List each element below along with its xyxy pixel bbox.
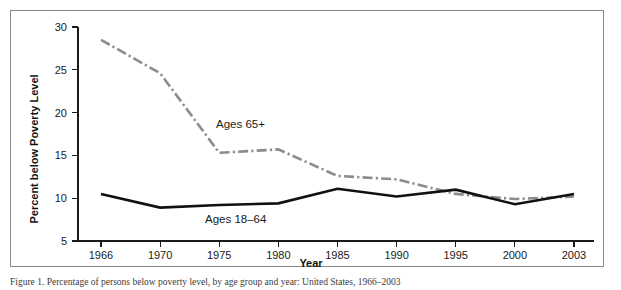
y-tick-label-30: 30 (55, 21, 67, 33)
x-tick-label-2003: 2003 (562, 249, 586, 261)
series-annotation-ages-18-64: Ages 18–64 (205, 213, 267, 225)
series-group (101, 40, 574, 208)
y-tick-labels: 30 25 20 15 10 5 (55, 21, 67, 247)
figure-frame: Percent below Poverty Level 30 25 20 15 … (10, 10, 604, 267)
y-tick-label-5: 5 (61, 235, 67, 247)
y-tick-label-15: 15 (55, 149, 67, 161)
x-tick-label-1980: 1980 (266, 249, 290, 261)
y-tick-label-10: 10 (55, 192, 67, 204)
x-tick-label-2000: 2000 (503, 249, 527, 261)
x-tick-label-1985: 1985 (325, 249, 349, 261)
x-tick-group (101, 241, 574, 247)
y-tick-group (72, 27, 78, 241)
poverty-line-chart: Percent below Poverty Level 30 25 20 15 … (11, 11, 605, 268)
x-tick-label-1990: 1990 (384, 249, 408, 261)
x-axis-title: Year (299, 257, 323, 268)
x-tick-label-1966: 1966 (89, 249, 113, 261)
x-tick-label-1995: 1995 (444, 249, 468, 261)
x-tick-label-1975: 1975 (207, 249, 231, 261)
y-tick-label-20: 20 (55, 107, 67, 119)
y-axis-title: Percent below Poverty Level (28, 74, 40, 223)
series-annotation-ages-65-plus: Ages 65+ (216, 118, 265, 130)
figure-caption: Figure 1. Percentage of persons below po… (10, 276, 604, 290)
series-line-ages-18-64 (101, 189, 574, 208)
series-annotations: Ages 65+Ages 18–64 (205, 118, 267, 225)
series-line-ages-65-plus (101, 40, 574, 199)
caption-line: Figure 1. Percentage of persons below po… (10, 276, 604, 288)
y-tick-label-25: 25 (55, 64, 67, 76)
x-tick-labels: 196619701975198019851990199520002003 (89, 249, 586, 261)
x-tick-label-1970: 1970 (148, 249, 172, 261)
